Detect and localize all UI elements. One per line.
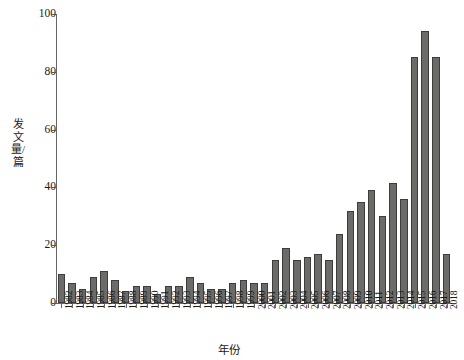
x-axis-tick-mark: [158, 304, 159, 308]
x-axis-tick-mark: [211, 304, 212, 308]
bar: [421, 31, 428, 303]
x-axis-tick-mark: [361, 304, 362, 308]
x-axis-tick-mark: [393, 304, 394, 308]
x-axis-tick-label: 2002: [279, 291, 289, 309]
x-axis-tick-mark: [93, 304, 94, 308]
x-axis-tick-mark: [147, 304, 148, 308]
bar: [400, 199, 407, 303]
x-axis-tick-mark: [350, 304, 351, 308]
x-axis-tick-mark: [179, 304, 180, 308]
bar: [411, 57, 418, 303]
x-axis-tick-mark: [425, 304, 426, 308]
x-axis-tick-label: 1992: [172, 291, 182, 309]
x-axis-title: 年份: [218, 341, 240, 357]
y-axis-tick-mark: [52, 303, 56, 304]
y-axis-tick-mark: [52, 14, 56, 15]
x-axis-tick-mark: [297, 304, 298, 308]
x-axis-tick-mark: [243, 304, 244, 308]
x-axis-tick-mark: [61, 304, 62, 308]
x-axis-tick-mark: [222, 304, 223, 308]
x-axis-tick-mark: [286, 304, 287, 308]
x-axis-tick-mark: [372, 304, 373, 308]
x-axis-tick-mark: [275, 304, 276, 308]
x-axis-tick-mark: [382, 304, 383, 308]
bar: [432, 57, 439, 303]
x-axis-tick-label: 2018: [450, 291, 460, 309]
x-axis-tick-mark: [436, 304, 437, 308]
y-axis-tick-mark: [52, 245, 56, 246]
x-axis-tick-mark: [329, 304, 330, 308]
x-axis-tick-label: 2005: [311, 291, 321, 309]
x-axis-tick-mark: [190, 304, 191, 308]
plot-area: [56, 14, 452, 303]
x-axis-tick-label: 1984: [86, 291, 96, 309]
x-axis-tick-mark: [254, 304, 255, 308]
x-axis-tick-mark: [83, 304, 84, 308]
y-axis-tick-mark: [52, 187, 56, 188]
bar: [389, 183, 396, 303]
bar-chart: 发文量/篇 020406080100 198219831984198519861…: [0, 0, 464, 360]
x-axis-tick-mark: [404, 304, 405, 308]
x-axis-tick-label: 2008: [343, 291, 353, 309]
x-axis-tick-mark: [104, 304, 105, 308]
x-axis-tick-mark: [265, 304, 266, 308]
x-axis-tick-label: 1988: [129, 291, 139, 309]
x-axis-tick-label: 2001: [268, 291, 278, 309]
bar: [347, 211, 354, 303]
x-axis-tick-mark: [308, 304, 309, 308]
x-axis-tick-mark: [168, 304, 169, 308]
x-axis-tick-mark: [318, 304, 319, 308]
x-axis-tick-label: 2011: [375, 291, 385, 309]
x-axis-tick-label: 1982: [65, 291, 75, 309]
x-axis-tick-label: 1991: [161, 291, 171, 309]
x-axis-tick-label: 1995: [204, 291, 214, 309]
x-axis-tick-mark: [340, 304, 341, 308]
x-axis-tick-mark: [200, 304, 201, 308]
x-axis-tick-mark: [115, 304, 116, 308]
x-axis-tick-label: 1994: [193, 291, 203, 309]
x-axis-tick-label: 2015: [418, 291, 428, 309]
x-axis-tick-mark: [415, 304, 416, 308]
x-axis-tick-mark: [126, 304, 127, 308]
y-axis-tick-mark: [52, 72, 56, 73]
x-axis-tick-label: 1985: [97, 291, 107, 309]
x-axis-tick-label: 2012: [386, 291, 396, 309]
x-axis-tick-mark: [72, 304, 73, 308]
y-axis-tick-mark: [52, 130, 56, 131]
bar: [357, 202, 364, 303]
x-axis-tick-mark: [233, 304, 234, 308]
x-axis-tick-mark: [447, 304, 448, 308]
x-axis-tick-label: 1998: [236, 291, 246, 309]
bar: [368, 190, 375, 303]
y-axis-tick-labels: 020406080100: [24, 0, 56, 360]
x-axis-tick-mark: [136, 304, 137, 308]
